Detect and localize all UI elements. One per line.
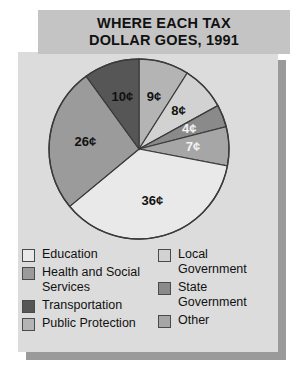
legend-swatch-icon (22, 318, 35, 331)
pie-slice-label: 7¢ (186, 139, 200, 154)
legend-item[interactable]: Health and Social Services (22, 265, 158, 295)
legend-item-label: Local Government (178, 247, 247, 277)
title-line-2: DOLLAR GOES, 1991 (89, 32, 239, 48)
legend-item-label: Health and Social Services (42, 265, 140, 295)
pie-slice-label: 10¢ (111, 89, 133, 104)
legend-item-label: Education (42, 247, 98, 262)
chart-legend: EducationHealth and Social Services Tran… (22, 247, 274, 351)
legend-item-label: Public Protection (42, 316, 136, 331)
pie-slice-label: 26¢ (75, 134, 97, 149)
legend-swatch-icon (158, 315, 171, 328)
legend-item[interactable]: Local Government (158, 247, 274, 277)
page-title: WHERE EACH TAX DOLLAR GOES, 1991 (89, 15, 239, 49)
pie-slice-label: 36¢ (142, 193, 164, 208)
legend-swatch-icon (158, 249, 171, 262)
legend-item-label: State Government (178, 280, 247, 310)
title-line-1: WHERE EACH TAX (97, 15, 231, 31)
legend-item[interactable]: Public Protection (22, 316, 158, 331)
legend-swatch-icon (22, 300, 35, 313)
pie-slice-group (49, 59, 229, 239)
legend-item[interactable]: Transportation (22, 298, 158, 313)
infographic-root: WHERE EACH TAX DOLLAR GOES, 1991 9¢8¢4¢7… (0, 0, 305, 380)
legend-swatch-icon (22, 249, 35, 262)
pie-chart: 9¢8¢4¢7¢36¢26¢10¢ (44, 54, 234, 244)
legend-column-right: Local GovernmentState GovernmentOther (158, 247, 274, 351)
legend-item[interactable]: Education (22, 247, 158, 262)
pie-slice-label: 4¢ (182, 121, 196, 136)
legend-item[interactable]: Other (158, 313, 274, 328)
pie-chart-svg: 9¢8¢4¢7¢36¢26¢10¢ (44, 54, 234, 244)
legend-swatch-icon (22, 267, 35, 280)
legend-swatch-icon (158, 282, 171, 295)
pie-slice-label: 9¢ (147, 89, 161, 104)
title-panel: WHERE EACH TAX DOLLAR GOES, 1991 (38, 10, 290, 54)
legend-item-label: Other (178, 313, 209, 328)
pie-slice-label: 8¢ (171, 103, 185, 118)
legend-column-left: EducationHealth and Social Services Tran… (22, 247, 158, 351)
legend-item-label: Transportation (42, 298, 122, 313)
legend-item[interactable]: State Government (158, 280, 274, 310)
